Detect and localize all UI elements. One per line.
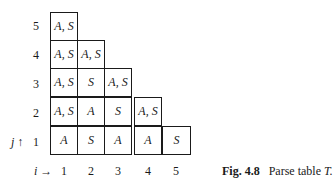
table-cell: A <box>50 126 78 155</box>
table-cell: S <box>77 126 105 155</box>
caption-text: Parse table <box>269 164 321 178</box>
j-axis-label: j ↑ <box>11 135 23 150</box>
table-cell: A <box>77 97 105 126</box>
table-cell: S <box>162 126 191 155</box>
caption-symbol: T. <box>324 164 333 178</box>
figure-caption: Fig. 4.8 Parse table T. <box>222 164 333 179</box>
col-label-5: 5 <box>162 164 190 179</box>
table-cell: A, S <box>104 68 132 97</box>
col-label-3: 3 <box>104 164 132 179</box>
table-cell: A, S <box>77 40 105 69</box>
table-cell: A <box>104 126 132 155</box>
col-label-2: 2 <box>77 164 105 179</box>
row-label-4: 4 <box>30 48 42 63</box>
table-cell: S <box>104 97 132 126</box>
col-label-1: 1 <box>50 164 78 179</box>
col-label-4: 4 <box>134 164 162 179</box>
row-label-3: 3 <box>30 77 42 92</box>
table-cell: S <box>77 68 105 97</box>
figure-number: Fig. 4.8 <box>222 164 260 178</box>
table-cell: A, S <box>134 97 162 126</box>
table-cell: A, S <box>50 68 78 97</box>
row-label-1: 1 <box>30 135 42 150</box>
table-cell: A <box>134 126 162 155</box>
row-label-2: 2 <box>30 106 42 121</box>
table-cell: A, S <box>50 12 78 41</box>
row-label-5: 5 <box>30 19 42 34</box>
table-cell: A, S <box>50 40 78 69</box>
table-cell: A, S <box>50 97 78 126</box>
